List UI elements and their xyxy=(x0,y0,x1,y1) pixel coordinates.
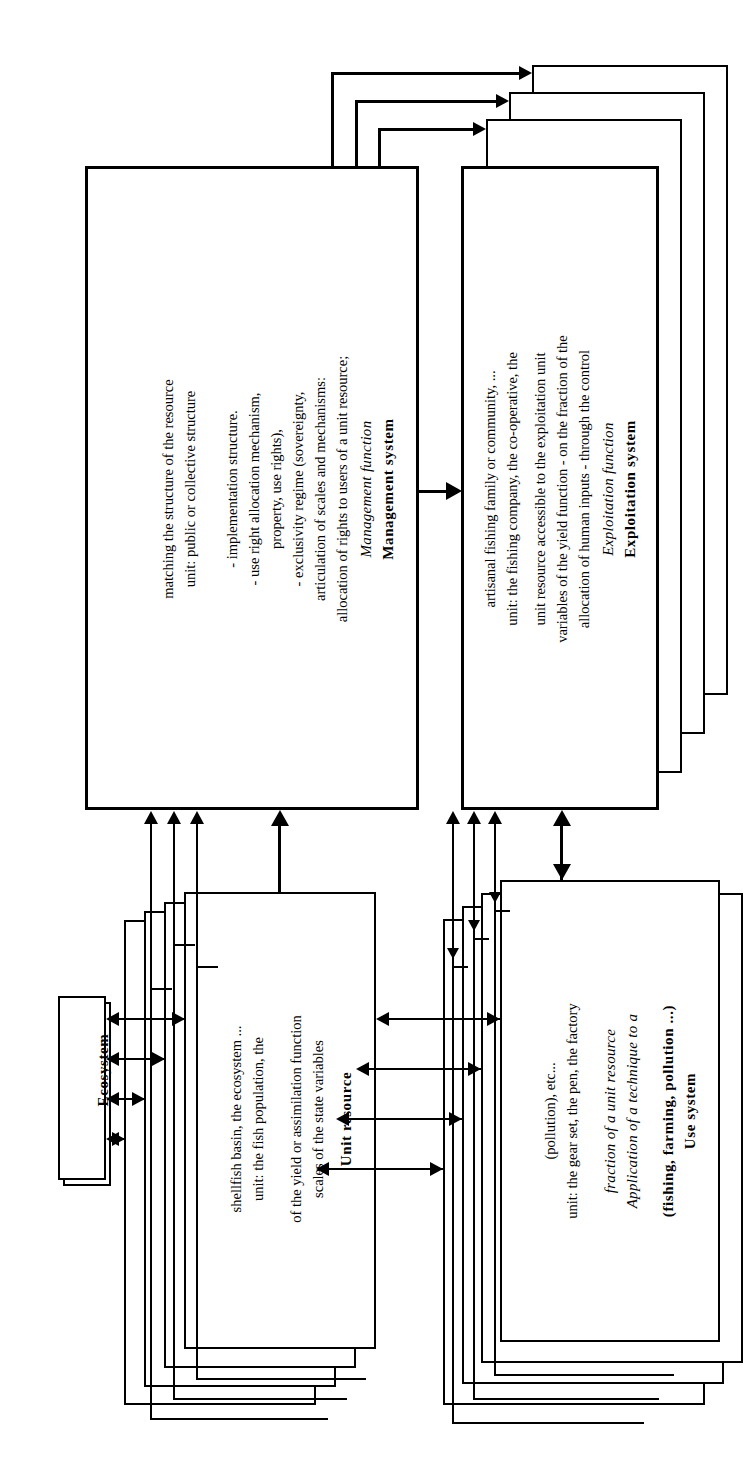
ecosystem-box[interactable]: Ecosystem xyxy=(58,996,106,1180)
expl-l1-down-arrow xyxy=(489,892,501,903)
eco-ur-arrow-left-3 xyxy=(106,1092,119,1106)
ur-l1-stub xyxy=(196,966,218,968)
expl-l2-down-arrow xyxy=(468,920,480,931)
ur-l2-v-left xyxy=(173,824,175,1400)
ur-us-line-1 xyxy=(388,1018,500,1020)
ur-l1-v-left xyxy=(196,824,198,1380)
use-system-title2: (fishing, farming, pollution ...) xyxy=(658,896,679,1326)
ur-l3-arrowhead xyxy=(144,811,158,824)
ur-us-arrow-right-4 xyxy=(430,1162,443,1176)
us-l3-stub xyxy=(452,966,468,968)
ur-l1-arrowhead xyxy=(190,811,204,824)
ur-l3-v-left xyxy=(150,824,152,1420)
unit-resource-unit-line-1: shellfish basin, the ecosystem ... xyxy=(226,904,246,1334)
use-system-title: Use system xyxy=(680,896,701,1326)
exploitation-unit-line-1: artisanal fishing family or community, .… xyxy=(480,189,500,789)
expl-l3-down-arrow xyxy=(447,948,459,959)
us-l1-v-left xyxy=(494,824,496,1376)
use-system-unit-line-0: unit: the gear set, the pen, the factory xyxy=(562,896,582,1326)
exploitation-system-box[interactable]: Exploitation system Exploitation functio… xyxy=(461,166,659,810)
exploitation-title: Exploitation system xyxy=(620,189,641,789)
use-system-box[interactable]: Use system (fishing, farming, pollution … xyxy=(500,880,720,1342)
ur-to-mgmt-v-main xyxy=(278,824,281,894)
ur-us-line-3 xyxy=(348,1118,462,1120)
mgmt-to-expl3-v xyxy=(331,72,334,168)
unit-resource-line-0: scales of the state variables xyxy=(308,904,328,1334)
management-line-2: - exclusivity regime (sovereignty, xyxy=(288,189,308,789)
ur-us-arrow-left-2 xyxy=(356,1062,369,1076)
mgmt-to-expl3-arrowhead xyxy=(519,66,532,80)
mgmt-to-expl-main-arrowhead xyxy=(446,482,462,500)
ur-us-arrow-right-3 xyxy=(449,1112,462,1126)
ur-to-mgmt-arrowhead-main xyxy=(271,810,289,826)
ur-l2-arrowhead xyxy=(167,811,181,824)
exploitation-line-0: allocation of human inputs - through the… xyxy=(574,189,594,789)
use-system-unit-line-1: (pollution), etc... xyxy=(540,896,560,1326)
exploitation-line-1: variables of the yield function - on the… xyxy=(552,189,572,789)
eco-ur-arrow-right-2 xyxy=(152,1052,165,1066)
use-system-subtitle: Application of a technique to a xyxy=(622,896,643,1326)
management-subtitle: Management function xyxy=(356,189,377,789)
us-l2-h-bottom xyxy=(473,1398,659,1400)
management-unit-line-0: unit: public or collective structure xyxy=(180,189,200,789)
ur-l2-stub xyxy=(173,944,195,946)
management-line-1: articulation of scales and mechanisms: xyxy=(310,189,330,789)
mgmt-to-expl1-v xyxy=(378,128,381,168)
management-line-5: - implementation structure. xyxy=(222,189,242,789)
ur-l1-h-bottom xyxy=(196,1378,366,1380)
us-l2-arrowhead xyxy=(467,811,481,824)
eco-ur-arrow-right-3 xyxy=(132,1092,145,1106)
unit-resource-unit-line-0: unit: the fish population, the xyxy=(248,904,268,1334)
diagram-canvas: Management system Management function al… xyxy=(0,0,746,1463)
management-line-4: - use right allocation mechanism, xyxy=(244,189,264,789)
management-line-0: allocation of rights to users of a unit … xyxy=(332,189,352,789)
us-l3-h-bottom xyxy=(452,1422,644,1424)
us-l3-arrowhead xyxy=(446,811,460,824)
us-l1-stub xyxy=(494,910,510,912)
eco-ur-arrow-left-1 xyxy=(106,1012,119,1026)
ur-l3-stub xyxy=(150,988,172,990)
use-system-subtitle2: fraction of a unit resource xyxy=(600,896,621,1326)
mgmt-to-expl1-h xyxy=(378,128,482,131)
mgmt-to-expl2-arrowhead xyxy=(496,94,509,108)
us-l1-h-bottom xyxy=(494,1374,674,1376)
management-title: Management system xyxy=(378,189,399,789)
exploitation-line-2: unit resource accessible to the exploita… xyxy=(530,189,550,789)
management-system-box[interactable]: Management system Management function al… xyxy=(85,166,419,810)
eco-ur-arrow-right-4 xyxy=(112,1132,125,1146)
us-to-expl-arrowhead-down xyxy=(553,864,571,880)
mgmt-to-expl1-arrowhead xyxy=(473,122,486,136)
mgmt-to-expl2-h xyxy=(355,100,505,103)
ur-us-line-4 xyxy=(328,1168,443,1170)
us-l3-v-left xyxy=(452,824,454,1424)
ur-us-arrow-left-3 xyxy=(336,1112,349,1126)
mgmt-to-expl3-h xyxy=(331,72,528,75)
exploitation-subtitle: Exploitation function xyxy=(598,189,619,789)
eco-ur-arrow-left-2 xyxy=(106,1052,119,1066)
us-l2-v-left xyxy=(473,824,475,1400)
management-line-3: property, use rights), xyxy=(266,189,286,789)
mgmt-to-expl2-v xyxy=(355,100,358,168)
exploitation-unit-line-0: unit: the fishing company, the co-operat… xyxy=(502,189,522,789)
us-to-expl-arrowhead-up xyxy=(553,810,571,826)
us-l2-stub xyxy=(473,938,489,940)
us-l1-arrowhead xyxy=(488,811,502,824)
ur-us-arrow-left-1 xyxy=(376,1012,389,1026)
unit-resource-line-1: of the yield or assimilation function xyxy=(286,904,306,1334)
ur-us-arrow-left-4 xyxy=(316,1162,329,1176)
ur-us-line-2 xyxy=(368,1068,481,1070)
management-unit-line-1: matching the structure of the resource xyxy=(158,189,178,789)
ur-l2-h-bottom xyxy=(173,1398,347,1400)
ur-l3-h-bottom xyxy=(150,1418,328,1420)
